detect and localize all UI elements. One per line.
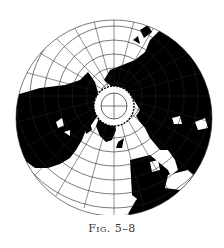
caption-text: Fig. 5–8	[88, 222, 136, 235]
figure-caption: Fig. 5–8	[0, 222, 224, 235]
north-america	[14, 72, 100, 168]
polar-cap	[94, 86, 134, 126]
pacific-islands	[133, 25, 152, 44]
polar-map	[0, 0, 224, 215]
map-disk	[0, 0, 224, 215]
